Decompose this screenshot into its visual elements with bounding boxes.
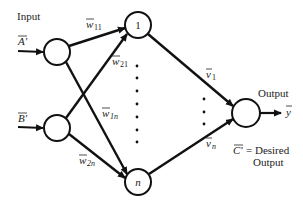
svg-text:v: v [206,68,211,80]
output-y-label: y [285,106,291,118]
input-a-arrow [18,51,43,52]
hidden-node-1-label: 1 [135,19,141,31]
svg-text:w: w [112,55,120,67]
desired-output-var: C' [233,144,243,156]
svg-text:21: 21 [120,60,128,69]
weight-w1n-label: w 1n [102,107,118,121]
svg-text:v: v [206,137,211,149]
svg-text:1: 1 [212,73,216,82]
input-node-b [44,115,70,141]
desired-output-line2: Output [253,156,284,168]
hidden-node-n-label: n [135,176,141,188]
desired-output-text: = Desired [246,144,290,156]
weight-v1-label: v 1 [206,68,216,82]
output-heading: Output [258,87,289,99]
weight-vn-label: v n [206,137,216,151]
weight-w2n-label: w 2n [79,154,95,168]
svg-text:w: w [86,18,94,30]
output-ellipsis-dots [203,98,206,126]
svg-text:w: w [79,154,87,166]
weight-w11-label: w 11 [86,18,102,32]
svg-text:w: w [102,107,110,119]
input-a-label: A' [17,35,28,47]
input-b-label: B' [18,112,28,124]
hidden-ellipsis-dots [136,65,139,144]
neural-network-diagram: 1 n Input Output A' B' w 11 w 21 w 1n w … [0,0,303,206]
input-heading: Input [17,10,40,22]
input-b-arrow [18,127,43,128]
edge-n-to-output [149,119,233,174]
svg-text:11: 11 [94,23,102,32]
input-node-a [44,39,70,65]
edge-1-to-output [148,34,233,106]
svg-text:2n: 2n [87,159,95,168]
output-node [232,99,260,127]
weight-w21-label: w 21 [112,55,128,69]
edge-b-to-1 [66,34,127,118]
svg-text:n: n [212,142,216,151]
svg-text:1n: 1n [110,112,118,121]
